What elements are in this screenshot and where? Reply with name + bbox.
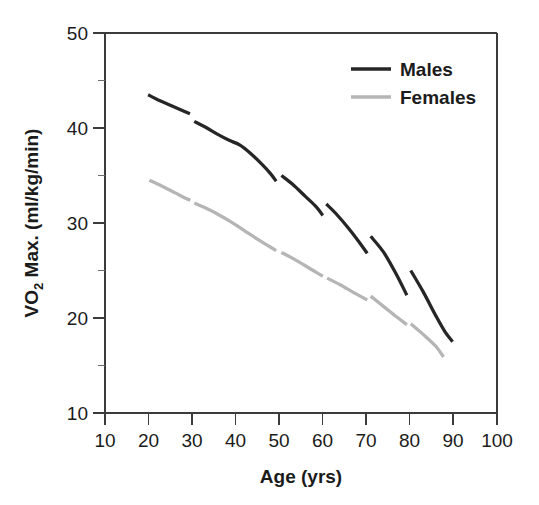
x-tick-label: 70 [355, 430, 376, 451]
series-segment-females-50-60 [281, 252, 322, 276]
legend-label-females: Females [400, 87, 476, 108]
y-tick-label: 20 [67, 308, 88, 329]
x-axis-ticks [105, 413, 497, 425]
vo2max-age-line-chart: 50 40 30 20 10 10 20 30 40 50 60 70 80 9… [0, 0, 539, 505]
series-females [149, 180, 443, 357]
series-segment-females-70-80 [371, 296, 407, 325]
y-axis-title-subscript: 2 [31, 283, 46, 290]
series-segment-females-80-90 [411, 324, 444, 357]
x-tick-label: 100 [481, 430, 513, 451]
data-series-layer [148, 95, 452, 357]
legend-label-males: Males [400, 59, 453, 80]
series-males [148, 95, 452, 342]
y-axis-title-suffix: Max. (ml/kg/min) [21, 129, 42, 283]
y-tick-label: 10 [67, 403, 88, 424]
y-axis-major-ticks [93, 33, 105, 413]
y-tick-label: 50 [67, 23, 88, 44]
x-axis-title: Age (yrs) [260, 466, 342, 487]
x-tick-labels: 10 20 30 40 50 60 70 80 90 100 [94, 430, 512, 451]
y-tick-labels: 50 40 30 20 10 [67, 23, 88, 424]
series-segment-males-50-60 [281, 176, 322, 216]
series-segment-males-60-70 [326, 204, 367, 253]
svg-text:VO2 Max. (ml/kg/min): VO2 Max. (ml/kg/min) [21, 129, 46, 318]
y-axis-title-prefix: VO [21, 290, 42, 317]
y-tick-label: 30 [67, 213, 88, 234]
series-segment-females-60-70 [327, 278, 367, 300]
series-segment-males-20-30 [148, 95, 190, 114]
x-tick-label: 40 [225, 430, 246, 451]
chart-legend: Males Females [351, 59, 476, 108]
chart-figure: 50 40 30 20 10 10 20 30 40 50 60 70 80 9… [0, 0, 539, 505]
series-segment-males-30-50 [194, 121, 276, 181]
x-tick-label: 60 [312, 430, 333, 451]
x-tick-label: 30 [181, 430, 202, 451]
x-tick-label: 50 [268, 430, 289, 451]
x-tick-label: 90 [442, 430, 463, 451]
x-tick-label: 20 [138, 430, 159, 451]
x-tick-label: 80 [399, 430, 420, 451]
series-segment-males-70-80 [371, 236, 407, 295]
y-axis-title: VO2 Max. (ml/kg/min) [21, 129, 46, 318]
series-segment-females-20-30 [149, 180, 190, 200]
series-segment-females-30-50 [194, 203, 276, 251]
x-tick-label: 10 [94, 430, 115, 451]
y-tick-label: 40 [67, 118, 88, 139]
